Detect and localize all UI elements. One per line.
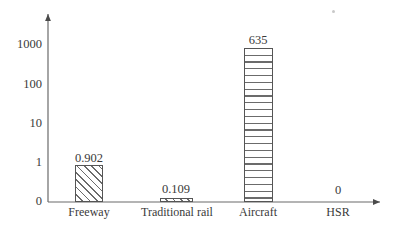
bar-value-hsr: 0 bbox=[302, 184, 374, 197]
y-tick-label-1: 1 bbox=[4, 156, 42, 169]
bar-value-traditional-rail: 0.109 bbox=[140, 183, 212, 196]
bar-freeway bbox=[75, 165, 103, 202]
bar-value-freeway: 0.902 bbox=[53, 152, 125, 165]
chart-axes bbox=[0, 0, 399, 234]
y-tick-label-0: 0 bbox=[4, 195, 42, 208]
x-category-label-freeway: Freeway bbox=[44, 206, 134, 219]
x-category-label-hsr: HSR bbox=[293, 206, 383, 219]
bar-chart-figure: 1000 100 10 1 0 0.902 Freeway 0.109 Trad… bbox=[0, 0, 399, 234]
y-tick-label-100: 100 bbox=[4, 78, 42, 91]
y-tick-label-10: 10 bbox=[4, 117, 42, 130]
bar-aircraft bbox=[244, 48, 273, 202]
y-tick-label-1000: 1000 bbox=[4, 38, 42, 51]
bar-value-aircraft: 635 bbox=[222, 34, 294, 47]
x-category-label-aircraft: Aircraft bbox=[213, 206, 303, 219]
bar-traditional-rail bbox=[160, 198, 193, 202]
scan-artifact-speck bbox=[332, 10, 335, 13]
